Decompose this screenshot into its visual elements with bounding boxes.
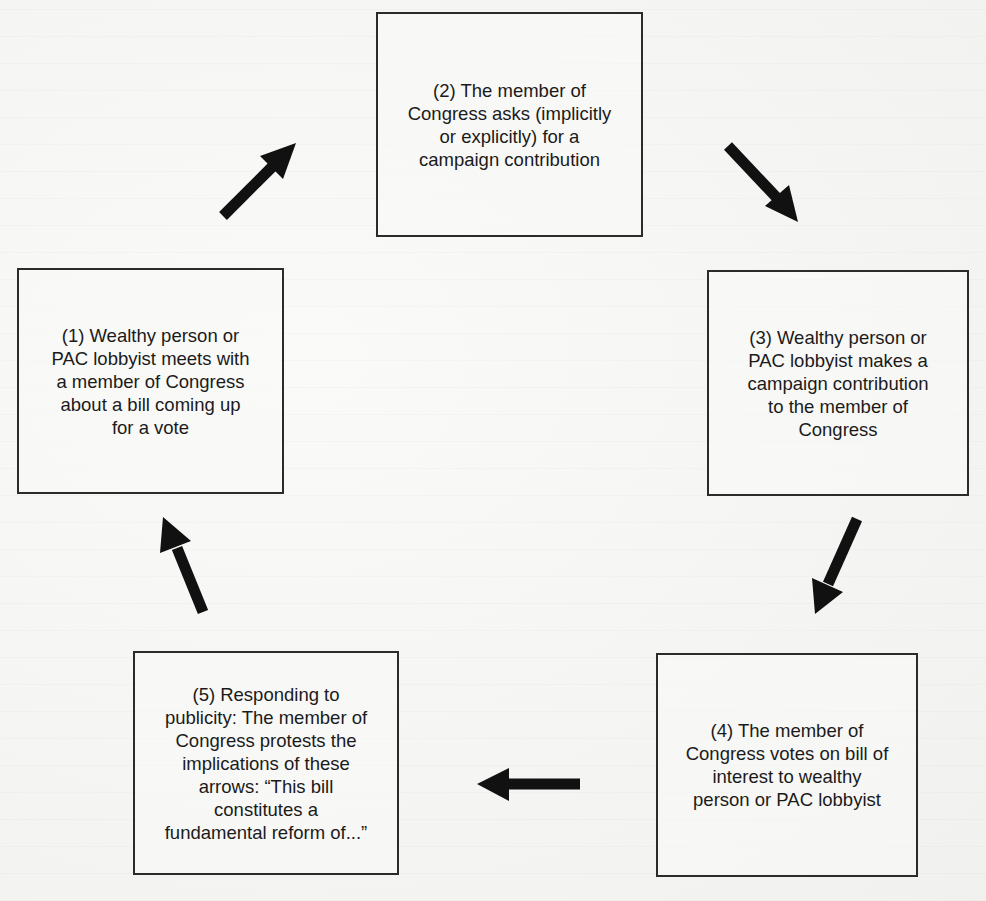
- step-box-3-makes-contribution: (3) Wealthy person or PAC lobbyist makes…: [707, 270, 969, 496]
- step-1-text: (1) Wealthy person or PAC lobbyist meets…: [51, 324, 249, 439]
- step-box-1-lobbyist-meets: (1) Wealthy person or PAC lobbyist meets…: [17, 268, 284, 494]
- step-box-5-responding-to-publicity: (5) Responding to publicity: The member …: [133, 651, 399, 875]
- arrow-down-left-icon: [812, 519, 857, 614]
- step-3-text: (3) Wealthy person or PAC lobbyist makes…: [748, 326, 929, 441]
- arrow-down-right-icon: [728, 146, 798, 222]
- step-5-text: (5) Responding to publicity: The member …: [165, 683, 368, 844]
- step-box-2-asks-contribution: (2) The member of Congress asks (implici…: [376, 12, 643, 237]
- step-4-text: (4) The member of Congress votes on bill…: [686, 719, 889, 811]
- step-2-text: (2) The member of Congress asks (implici…: [408, 79, 612, 171]
- arrow-up-left-icon: [160, 517, 203, 612]
- arrow-left-icon: [477, 768, 580, 801]
- arrow-up-right-icon: [223, 143, 296, 216]
- step-box-4-votes-on-bill: (4) The member of Congress votes on bill…: [656, 653, 918, 877]
